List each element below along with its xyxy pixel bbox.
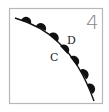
front-diagram: 4 D C <box>0 0 109 112</box>
panel-number: 4 <box>86 10 99 34</box>
label-c: C <box>50 51 58 64</box>
label-d: D <box>67 34 76 47</box>
diagram-panel: 4 D C <box>0 0 109 112</box>
